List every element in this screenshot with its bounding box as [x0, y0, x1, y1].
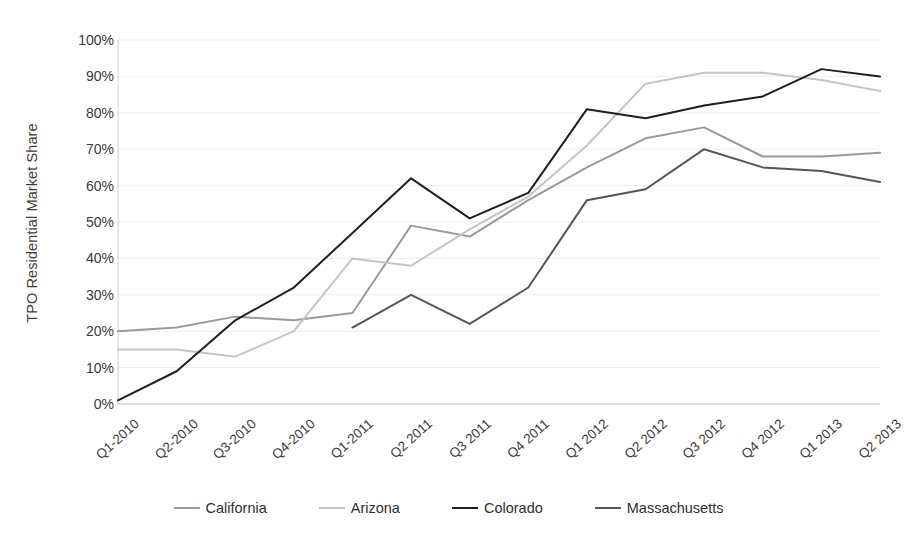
- legend-label: Arizona: [351, 500, 400, 516]
- chart-legend: CaliforniaArizonaColoradoMassachusetts: [0, 500, 897, 516]
- legend-label: California: [206, 500, 267, 516]
- legend-item-arizona[interactable]: Arizona: [319, 500, 400, 516]
- legend-label: Colorado: [484, 500, 543, 516]
- legend-item-california[interactable]: California: [174, 500, 267, 516]
- legend-item-massachusetts[interactable]: Massachusetts: [595, 500, 724, 516]
- legend-item-colorado[interactable]: Colorado: [452, 500, 543, 516]
- x-axis-tick-label: Q1-2010: [43, 416, 142, 507]
- legend-swatch-icon: [174, 507, 200, 509]
- legend-swatch-icon: [595, 507, 621, 509]
- legend-swatch-icon: [452, 507, 478, 509]
- legend-swatch-icon: [319, 507, 345, 509]
- legend-label: Massachusetts: [627, 500, 724, 516]
